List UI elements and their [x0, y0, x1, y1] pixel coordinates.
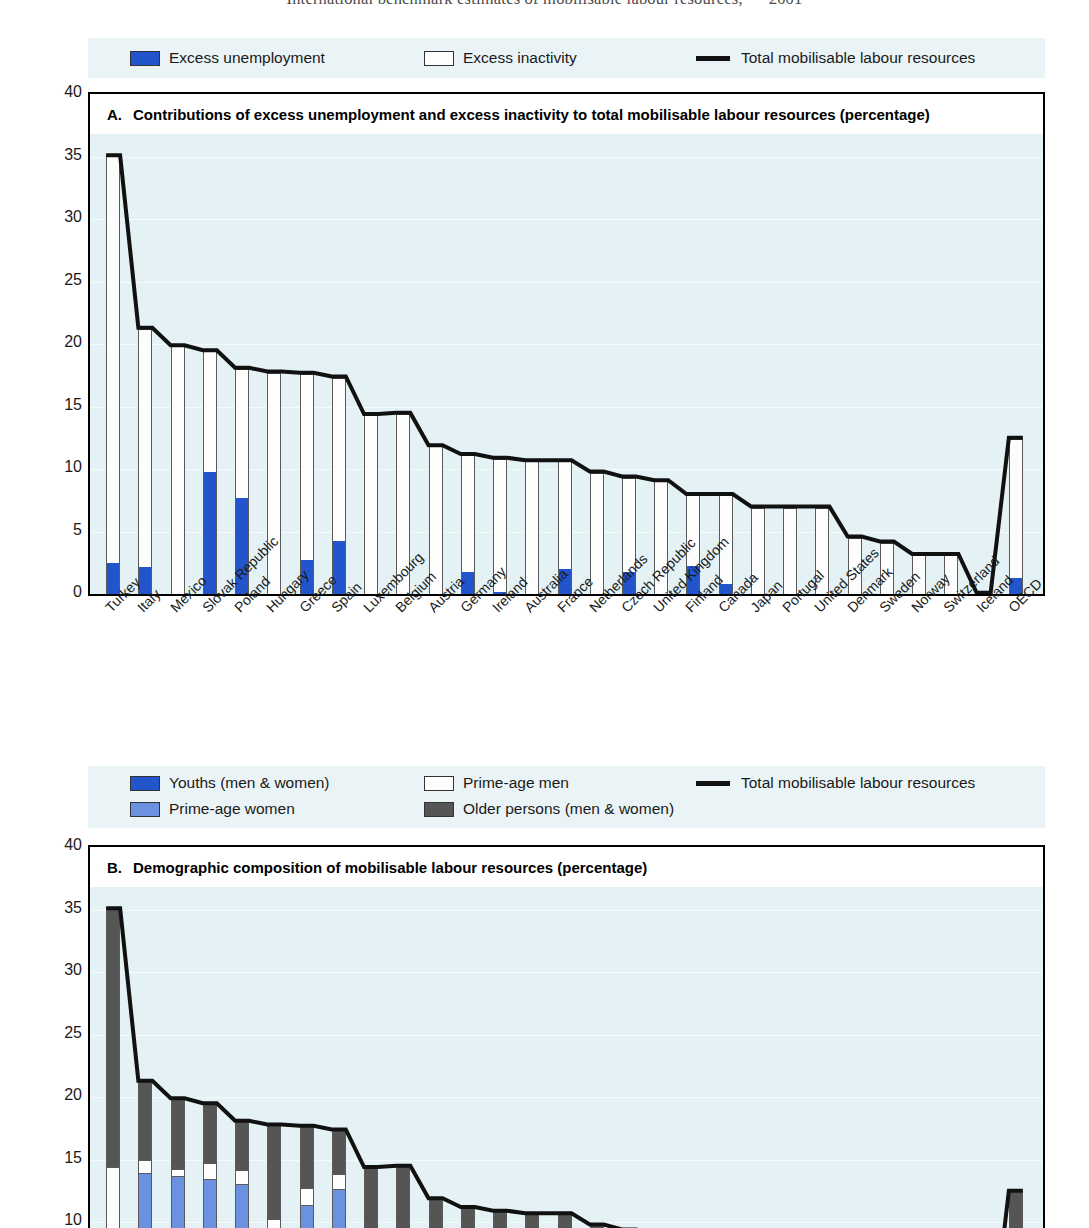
y-axis-tick-label: 20 — [38, 1086, 82, 1104]
legend-label: Excess inactivity — [463, 50, 577, 66]
legend-swatch-icon — [130, 802, 160, 817]
total-line-overlay — [90, 847, 1043, 1228]
legend-line-icon — [696, 56, 730, 61]
legend-label: Excess unemployment — [169, 50, 325, 66]
legend-label: Total mobilisable labour resources — [741, 50, 975, 66]
panel-a-title: Contributions of excess unemployment and… — [133, 106, 930, 123]
legend-panel-b: Youths (men & women)Prime-age womenPrime… — [88, 766, 1045, 828]
legend-swatch-icon — [130, 51, 160, 66]
y-axis-tick-label: 0 — [38, 583, 82, 601]
panel-b-title: Demographic composition of mobilisable l… — [133, 859, 647, 876]
y-axis-tick-label: 20 — [38, 333, 82, 351]
legend-item-prime-age-women: Prime-age women — [130, 801, 295, 817]
legend-swatch-icon — [424, 51, 454, 66]
legend-panel-a: Excess unemploymentExcess inactivityTota… — [88, 38, 1045, 78]
figure-page: International benchmark estimates of mob… — [0, 0, 1089, 1228]
y-axis-tick-label: 25 — [38, 1024, 82, 1042]
legend-item-total-line: Total mobilisable labour resources — [696, 775, 975, 791]
y-axis-tick-label: 30 — [38, 208, 82, 226]
total-mobilisable-line — [106, 155, 1023, 593]
panel-b-letter: B. — [107, 859, 122, 876]
legend-item-youths: Youths (men & women) — [130, 775, 330, 791]
y-axis-tick-label: 10 — [38, 458, 82, 476]
total-line-overlay — [90, 94, 1043, 594]
panel-a: A. Contributions of excess unemployment … — [88, 92, 1045, 596]
legend-item-total-line: Total mobilisable labour resources — [696, 50, 975, 66]
y-axis-tick-label: 40 — [38, 836, 82, 854]
y-axis-tick-label: 15 — [38, 396, 82, 414]
legend-item-excess-inactivity: Excess inactivity — [424, 50, 577, 66]
panel-b-plot-area — [90, 847, 1043, 1228]
legend-swatch-icon — [130, 776, 160, 791]
figure-title: International benchmark estimates of mob… — [0, 0, 1089, 9]
panel-b: B. Demographic composition of mobilisabl… — [88, 845, 1045, 1228]
legend-label: Prime-age men — [463, 775, 569, 791]
figure-title-year: 2001 — [769, 0, 803, 8]
legend-line-icon — [696, 781, 730, 786]
panel-a-plot-area — [90, 94, 1043, 594]
panel-a-y-axis: 0510152025303540 — [38, 92, 82, 594]
y-axis-tick-label: 5 — [38, 521, 82, 539]
y-axis-tick-label: 10 — [38, 1211, 82, 1228]
legend-label: Prime-age women — [169, 801, 295, 817]
y-axis-tick-label: 30 — [38, 961, 82, 979]
total-mobilisable-line — [106, 908, 1023, 1228]
panel-a-header: A. Contributions of excess unemployment … — [90, 94, 1043, 134]
legend-swatch-icon — [424, 776, 454, 791]
legend-item-excess-unemployment: Excess unemployment — [130, 50, 325, 66]
y-axis-tick-label: 40 — [38, 83, 82, 101]
legend-label: Total mobilisable labour resources — [741, 775, 975, 791]
panel-a-x-axis-labels: TurkeyItalyMexicoSlovak RepublicPolandHu… — [88, 600, 1045, 690]
panel-a-letter: A. — [107, 106, 122, 123]
y-axis-tick-label: 15 — [38, 1149, 82, 1167]
legend-item-older-persons: Older persons (men & women) — [424, 801, 674, 817]
panel-b-y-axis: 10152025303540 — [38, 845, 82, 1228]
legend-swatch-icon — [424, 802, 454, 817]
figure-title-text: International benchmark estimates of mob… — [286, 0, 742, 8]
legend-label: Older persons (men & women) — [463, 801, 674, 817]
legend-item-prime-age-men: Prime-age men — [424, 775, 569, 791]
y-axis-tick-label: 35 — [38, 146, 82, 164]
legend-label: Youths (men & women) — [169, 775, 330, 791]
y-axis-tick-label: 35 — [38, 899, 82, 917]
panel-b-header: B. Demographic composition of mobilisabl… — [90, 847, 1043, 887]
y-axis-tick-label: 25 — [38, 271, 82, 289]
